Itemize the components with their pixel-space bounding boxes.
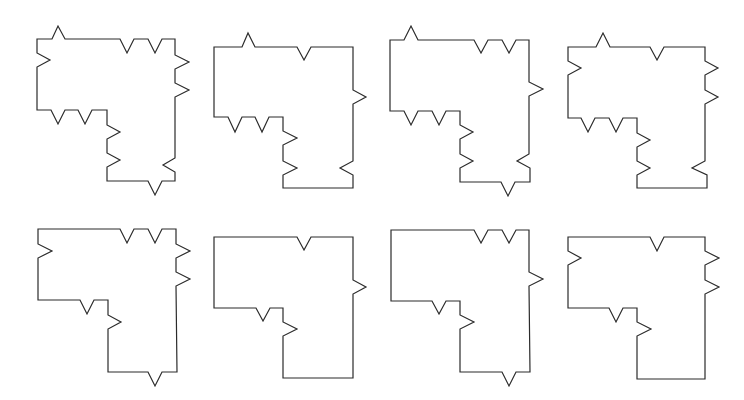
l-shape-8 (568, 237, 719, 379)
l-shape-7 (391, 230, 543, 386)
l-shape-2 (214, 33, 366, 188)
l-shape-4 (568, 33, 718, 188)
puzzle-shapes-figure (0, 0, 744, 400)
l-shape-3 (390, 26, 543, 196)
l-shape-1 (37, 26, 189, 195)
l-shape-6 (214, 237, 366, 378)
l-shape-5 (38, 229, 190, 386)
